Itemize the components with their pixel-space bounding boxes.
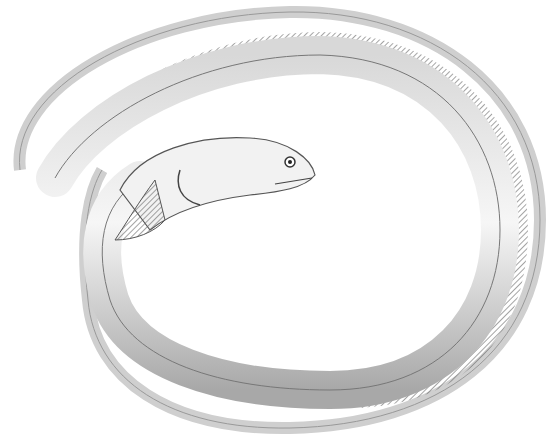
eel-body: [55, 55, 500, 390]
eel-drawing: [0, 0, 553, 437]
eel-illustration: [0, 0, 553, 437]
